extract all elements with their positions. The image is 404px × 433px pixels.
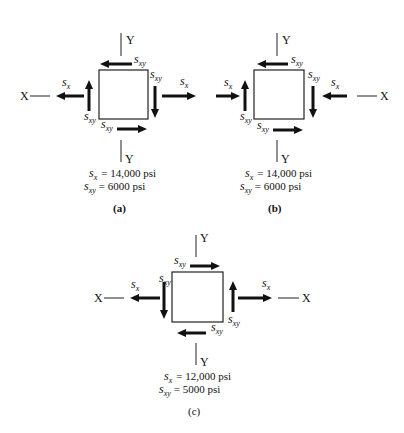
normal-arrow-left [56, 92, 84, 100]
stress-element-diagram: Y sxy sxy sxy sxy s [0, 0, 404, 433]
shear-arrow-left [160, 282, 168, 319]
shear-arrow-bottom [273, 126, 303, 134]
normal-arrow-left [216, 92, 240, 100]
stress-element-square [254, 70, 304, 119]
caption-c: (c) [188, 405, 201, 418]
shear-arrow-left [241, 80, 249, 111]
shear-label-left: sxy [159, 271, 171, 287]
normal-arrow-left [130, 294, 160, 302]
shear-arrow-top [190, 262, 220, 270]
y-axis-label-bottom: Y [200, 355, 209, 369]
caption-b: (b) [268, 202, 282, 215]
caption-a: (a) [113, 202, 126, 215]
shear-label-right: sxy [150, 67, 162, 83]
shear-arrow-top [257, 60, 288, 68]
shear-arrow-bottom [177, 329, 206, 337]
panel-a: Y sxy sxy sxy sxy s [20, 33, 196, 215]
normal-label-left: sx [224, 75, 233, 91]
shear-label-right: sxy [308, 67, 320, 83]
shear-arrow-bottom [117, 125, 147, 133]
shear-label-top: sxy [134, 52, 146, 68]
stress-element-square [172, 272, 223, 322]
shear-arrow-right [309, 86, 317, 118]
panel-b: Y sxy sxy sxy sxy sx [216, 33, 389, 215]
normal-arrow-right [162, 92, 196, 100]
normal-arrow-right [238, 294, 272, 302]
stress-element-square [99, 70, 148, 119]
shear-arrow-right [229, 281, 237, 312]
x-axis-label-left: X [94, 291, 103, 305]
x-axis-label: X [20, 89, 29, 103]
shear-arrow-top [100, 60, 132, 68]
shear-label-right: sxy [228, 312, 240, 328]
y-axis-label-top: Y [200, 231, 209, 245]
y-axis-label-top: Y [126, 33, 135, 47]
shear-label-left: sxy [240, 109, 252, 125]
y-axis-label-top: Y [282, 33, 291, 47]
shear-label-bottom: sxy [257, 118, 269, 134]
shear-arrow-left [85, 80, 93, 111]
normal-label-right: sx [180, 74, 189, 90]
x-axis-label: X [380, 89, 389, 103]
normal-label-right: sx [262, 276, 271, 292]
shear-label-top: sxy [291, 52, 303, 68]
panel-c: Y sxy sxy sxy sxy sx [94, 231, 311, 418]
shear-arrow-right [151, 86, 159, 118]
normal-label-right: sx [331, 75, 340, 91]
shear-label-top: sxy [174, 253, 186, 269]
x-axis-label-right: X [302, 291, 311, 305]
normal-arrow-right [322, 92, 347, 100]
normal-label-left: sx [131, 277, 140, 293]
y-axis-label-bottom: Y [281, 152, 290, 166]
shear-label-left: sxy [84, 109, 96, 125]
normal-label-left: sx [62, 75, 71, 91]
y-axis-label-bottom: Y [125, 152, 134, 166]
